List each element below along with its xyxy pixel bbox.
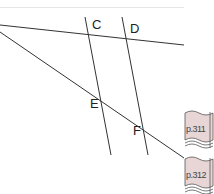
page-tab-311[interactable]: p.311 [184, 110, 214, 150]
page-tab-label: p.312 [186, 170, 206, 180]
line-CE [85, 17, 111, 155]
page-tab-label: p.311 [186, 124, 205, 134]
point-label-e: E [90, 97, 99, 110]
geometry-diagram: C D E F p.311 p.312 [0, 0, 214, 194]
point-label-d: D [130, 22, 139, 35]
diagram-lines [0, 0, 214, 194]
transversal-diagonal-line [0, 32, 184, 158]
point-label-f: F [133, 124, 141, 137]
page-tab-312[interactable]: p.312 [184, 156, 214, 194]
point-label-c: C [92, 18, 101, 31]
